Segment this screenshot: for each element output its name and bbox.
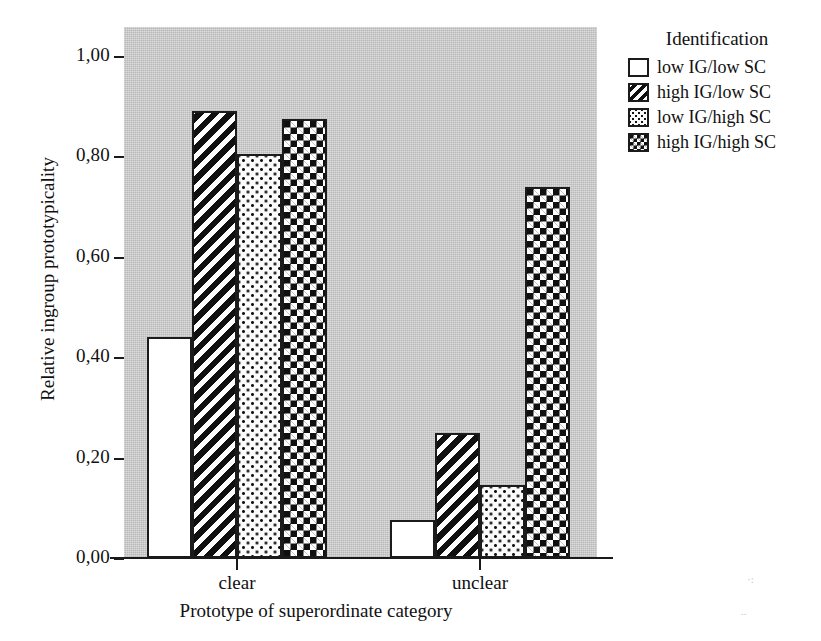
bar-clear-low-ig-high-sc xyxy=(237,154,282,558)
y-tick-mark xyxy=(114,357,124,359)
y-tick-mark xyxy=(114,257,124,259)
bar-unclear-high-ig-low-sc xyxy=(435,433,480,559)
legend-swatch-icon xyxy=(628,58,649,77)
bar-clear-high-ig-low-sc xyxy=(192,111,237,558)
y-tick-label: 1,00 xyxy=(76,44,110,66)
plot-area xyxy=(124,27,597,558)
legend-item-high-ig-high-sc[interactable]: high IG/high SC xyxy=(628,130,818,155)
x-tick-label-clear: clear xyxy=(219,572,256,594)
y-tick-label: 0,40 xyxy=(76,345,110,367)
x-tick-mark xyxy=(236,558,238,570)
y-tick-label: 0,00 xyxy=(76,546,110,568)
bar-unclear-low-ig-low-sc xyxy=(390,520,435,558)
x-axis-title: Prototype of superordinate category xyxy=(0,600,632,622)
bar-clear-high-ig-high-sc xyxy=(282,119,327,558)
legend-item-label: high IG/high SC xyxy=(657,132,776,153)
legend-swatch-icon xyxy=(628,83,649,102)
x-tick-mark xyxy=(479,558,481,570)
scan-artifact: .. xyxy=(741,605,747,617)
x-tick-label-unclear: unclear xyxy=(452,572,508,594)
legend-swatch-icon xyxy=(628,133,649,152)
legend-swatch-icon xyxy=(628,108,649,127)
legend-title: Identification xyxy=(628,28,806,50)
x-axis-line xyxy=(110,557,613,559)
legend-item-low-ig-low-sc[interactable]: low IG/low SC xyxy=(628,55,818,80)
bar-chart-figure: 0,000,200,400,600,801,00 clearunclear Re… xyxy=(0,0,821,641)
legend-item-label: low IG/high SC xyxy=(657,107,771,128)
bar-clear-low-ig-low-sc xyxy=(147,337,192,558)
y-tick-mark xyxy=(114,156,124,158)
legend-item-low-ig-high-sc[interactable]: low IG/high SC xyxy=(628,105,818,130)
y-tick-mark xyxy=(114,56,124,58)
bar-unclear-low-ig-high-sc xyxy=(480,485,525,558)
y-tick-mark xyxy=(114,558,124,560)
legend-item-high-ig-low-sc[interactable]: high IG/low SC xyxy=(628,80,818,105)
bar-unclear-high-ig-high-sc xyxy=(525,187,570,558)
y-tick-label: 0,60 xyxy=(76,245,110,267)
scan-artifact: ·: xyxy=(747,573,754,585)
y-tick-label: 0,80 xyxy=(76,144,110,166)
y-axis-title: Relative ingroup prototypicality xyxy=(37,99,59,459)
legend: Identification low IG/low SChigh IG/low … xyxy=(628,28,818,155)
legend-entries: low IG/low SChigh IG/low SClow IG/high S… xyxy=(628,55,818,155)
legend-item-label: high IG/low SC xyxy=(657,82,771,103)
y-tick-label: 0,20 xyxy=(76,446,110,468)
y-tick-mark xyxy=(114,458,124,460)
legend-item-label: low IG/low SC xyxy=(657,57,766,78)
